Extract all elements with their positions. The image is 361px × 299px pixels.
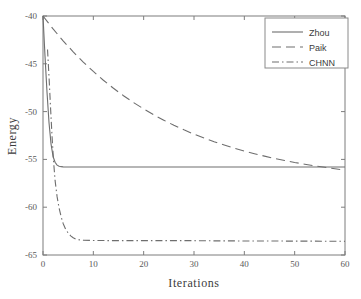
x-tick-label: 40 <box>240 259 250 269</box>
x-tick-label: 60 <box>341 259 351 269</box>
y-tick-label: -45 <box>25 59 37 69</box>
x-tick-label: 20 <box>139 259 149 269</box>
y-tick-label: -55 <box>25 154 37 164</box>
y-tick-label: -65 <box>25 250 37 260</box>
y-axis-title: Energy <box>5 117 19 155</box>
x-tick-label: 30 <box>190 259 200 269</box>
x-tick-label: 0 <box>41 259 46 269</box>
legend-box <box>265 18 348 68</box>
y-tick-label: -40 <box>25 11 37 21</box>
legend-label-paik: Paik <box>309 43 327 53</box>
chart-container: 0102030405060 -65-60-55-50-45-40 Iterati… <box>0 0 361 299</box>
legend: ZhouPaikCHNN <box>265 18 348 68</box>
y-tick-label: -50 <box>25 107 37 117</box>
x-axis-title: Iterations <box>168 276 219 290</box>
x-tick-label: 10 <box>89 259 99 269</box>
y-tick-label: -60 <box>25 202 37 212</box>
legend-label-chnn: CHNN <box>309 58 335 68</box>
x-tick-label: 50 <box>290 259 300 269</box>
legend-label-zhou: Zhou <box>309 28 330 38</box>
energy-iterations-line-chart: 0102030405060 -65-60-55-50-45-40 Iterati… <box>0 0 361 299</box>
